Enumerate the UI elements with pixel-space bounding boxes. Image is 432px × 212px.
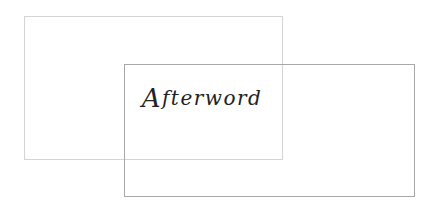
title-rest: fterword <box>162 86 262 110</box>
title-initial: A <box>142 83 162 113</box>
page-title: Afterword <box>140 80 264 116</box>
